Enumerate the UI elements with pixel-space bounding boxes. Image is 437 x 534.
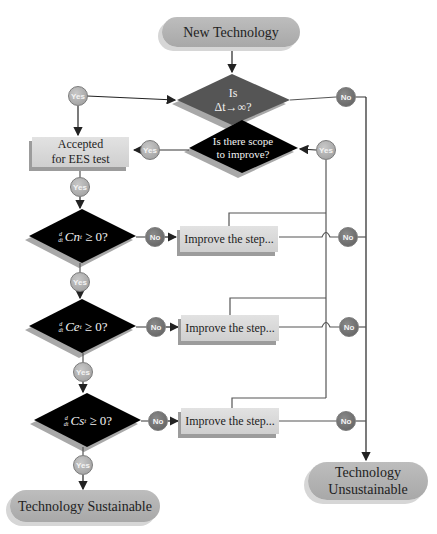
unsustainable-line1: Technology (335, 464, 401, 481)
decision-scope-line2: to improve? (217, 148, 270, 161)
flowchart: New Technology Accepted for EES test Imp… (0, 0, 437, 534)
no-connector-ce: No (146, 317, 166, 337)
decision-time-line2: Δt→∞? (215, 100, 252, 114)
improve-ce-label: Improve the step... (185, 321, 275, 336)
start-node-label: New Technology (183, 24, 279, 41)
improve-step-cs-box: Improve the step... (181, 408, 279, 434)
cn-expr: Cn (65, 230, 80, 244)
improve-step-ce-box: Improve the step... (181, 315, 279, 341)
improve-cn-label: Improve the step... (184, 232, 274, 247)
yes-connector-cn: Yes (70, 272, 90, 292)
yes-connector-scope-right: Yes (316, 140, 336, 160)
decision-ce-label: ddt Cet ≥ 0? (40, 318, 126, 336)
decision-cs-label: ddt Cst ≥ 0? (45, 412, 131, 430)
no-connector-ce-right: No (339, 317, 359, 337)
decision-scope-label: Is there scope to improve? (200, 134, 286, 162)
cs-expr: Cs (71, 414, 85, 428)
connector-lines (0, 0, 437, 534)
sustainable-label: Technology Sustainable (18, 498, 152, 515)
accepted-for-ees-test-box: Accepted for EES test (32, 137, 129, 167)
decision-scope-line1: Is there scope (213, 135, 273, 148)
decision-time-label: Is Δt→∞? (190, 86, 276, 114)
ce-expr: Ce (65, 320, 79, 334)
decision-time-line1: Is (229, 86, 238, 100)
no-connector-cs-right: No (336, 411, 356, 431)
yes-connector-ce: Yes (73, 362, 93, 382)
no-connector-cn: No (145, 227, 165, 247)
no-connector-cs: No (148, 411, 168, 431)
decision-cn-label: ddt Cnt ≥ 0? (40, 228, 126, 246)
yes-connector-scope-left: Yes (140, 140, 160, 160)
yes-connector-accepted: Yes (70, 177, 90, 197)
improve-cs-label: Improve the step... (185, 414, 275, 429)
yes-connector-time: Yes (68, 86, 88, 106)
accepted-line1: Accepted (58, 137, 103, 152)
unsustainable-line2: Unsustainable (328, 481, 407, 498)
yes-connector-cs: Yes (73, 455, 93, 475)
end-node-technology-sustainable: Technology Sustainable (10, 490, 160, 522)
accepted-line2: for EES test (52, 152, 110, 167)
improve-step-cn-box: Improve the step... (180, 226, 278, 252)
start-node-new-technology: New Technology (162, 17, 300, 47)
end-node-technology-unsustainable: Technology Unsustainable (308, 462, 428, 500)
no-connector-time: No (336, 87, 356, 107)
no-connector-cn-right: No (338, 227, 358, 247)
